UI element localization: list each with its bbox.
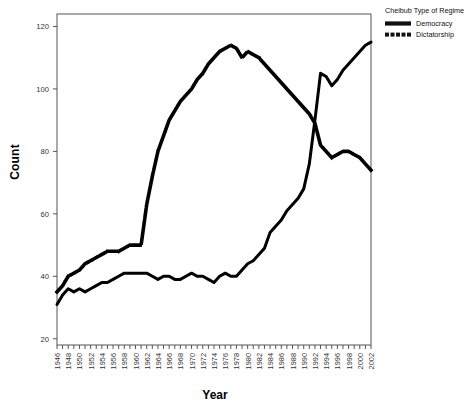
x-tick-label: 1980	[244, 353, 253, 369]
x-tick-label: 1990	[300, 353, 309, 369]
x-tick-label: 1960	[132, 353, 141, 369]
x-tick-label: 1958	[120, 353, 129, 369]
y-tick-label: 60	[41, 210, 49, 219]
legend-item-dictatorship: Dictatorship	[385, 30, 475, 39]
x-tick-label: 1972	[199, 353, 208, 369]
x-tick-label: 1976	[221, 353, 230, 369]
x-tick-label: 1964	[154, 353, 163, 369]
x-tick-label: 1998	[345, 353, 354, 369]
legend-title: Cheibub Type of Regime	[385, 6, 475, 15]
y-tick-label: 100	[36, 85, 49, 94]
x-tick-label: 1996	[333, 353, 342, 369]
x-tick-label: 1950	[75, 353, 84, 369]
y-axis: 20406080100120	[36, 22, 57, 343]
legend-item-democracy: Democracy	[385, 19, 475, 28]
y-axis-title: Count	[8, 127, 22, 197]
chart-legend: Cheibub Type of Regime Democracy Dictato…	[385, 6, 475, 41]
plot-frame	[57, 14, 371, 345]
x-tick-label: 1968	[176, 353, 185, 369]
x-tick-label: 2002	[367, 353, 376, 369]
x-tick-label: 1952	[87, 353, 96, 369]
plot-area: 2040608010012019461948195019521954195619…	[0, 0, 475, 409]
x-tick-label: 1982	[255, 353, 264, 369]
x-tick-label: 1978	[232, 353, 241, 369]
x-tick-label: 1962	[143, 353, 152, 369]
x-tick-label: 1946	[53, 353, 62, 369]
x-tick-label: 1954	[98, 353, 107, 369]
x-axis-title: Year	[155, 388, 275, 402]
series-line-dictatorship	[57, 45, 371, 292]
x-tick-label: 1974	[210, 353, 219, 369]
y-tick-label: 120	[36, 22, 49, 31]
y-tick-label: 20	[41, 335, 49, 344]
x-axis: 1946194819501952195419561958196019621964…	[53, 345, 376, 369]
y-tick-label: 40	[41, 272, 49, 281]
x-tick-label: 1994	[322, 353, 331, 369]
x-tick-label: 1948	[64, 353, 73, 369]
legend-label-democracy: Democracy	[416, 19, 452, 28]
regime-count-chart: 2040608010012019461948195019521954195619…	[0, 0, 475, 409]
y-tick-label: 80	[41, 147, 49, 156]
x-tick-label: 1992	[311, 353, 320, 369]
legend-label-dictatorship: Dictatorship	[416, 30, 454, 39]
x-tick-label: 1966	[165, 353, 174, 369]
legend-key-solid-icon	[385, 19, 411, 28]
series-line-democracy	[57, 42, 371, 304]
x-tick-label: 1970	[188, 353, 197, 369]
x-tick-label: 1984	[266, 353, 275, 369]
x-tick-label: 1988	[289, 353, 298, 369]
x-tick-label: 1956	[109, 353, 118, 369]
x-tick-label: 2000	[356, 353, 365, 369]
legend-key-dotted-icon	[385, 30, 411, 39]
x-tick-label: 1986	[277, 353, 286, 369]
